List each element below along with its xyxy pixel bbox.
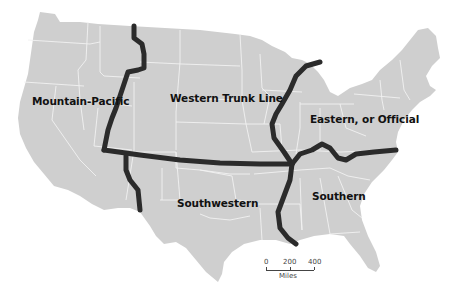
us-landmass [18,12,440,282]
scale-unit: Miles [279,272,297,280]
scale-tick-mark [290,267,291,270]
scale-tick-mark [266,267,267,270]
scale-tick-400: 400 [308,258,321,266]
scale-line [266,270,314,271]
scale-tick-200: 200 [283,258,296,266]
region-label-mountain-pacific: Mountain-Pacific [32,95,129,107]
region-label-western-trunk-line: Western Trunk Line [170,92,283,104]
scale-tick-mark [314,267,315,270]
us-map [0,0,462,295]
scale-tick-0: 0 [264,258,268,266]
region-label-southern: Southern [312,190,366,202]
region-label-southwestern: Southwestern [177,197,258,209]
region-label-eastern-official: Eastern, or Official [310,113,419,125]
scale-bar: 0 200 400 Miles [262,258,342,290]
